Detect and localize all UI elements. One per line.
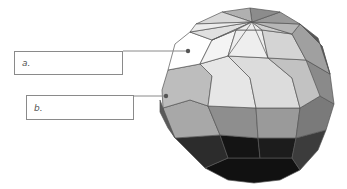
label-box-b[interactable]: b. [26, 95, 134, 120]
label-b-text: b. [34, 103, 43, 113]
label-a-text: a. [22, 58, 30, 68]
diagram-stage: a. b. [0, 0, 347, 189]
label-box-a[interactable]: a. [14, 51, 123, 75]
sphere-bottom-band [175, 130, 326, 183]
